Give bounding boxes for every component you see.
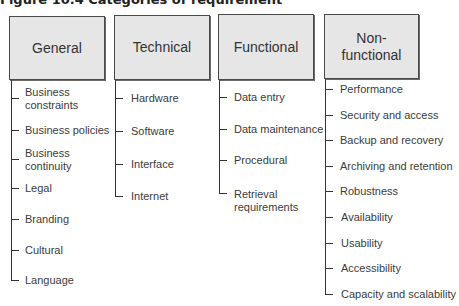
tree-branch [325, 191, 333, 192]
category-label: Technical [133, 39, 191, 56]
category-box-non-functional: Non-functional [324, 14, 419, 79]
category-box-functional: Functional [218, 14, 314, 80]
tree-branch [11, 188, 19, 189]
figure-title: Figure 10.4 Categories of requirement [0, 0, 282, 7]
tree-branch-last [325, 294, 333, 295]
list-item: Interface [131, 158, 174, 171]
tree-branch [325, 217, 333, 218]
category-label: Non-functional [342, 30, 402, 64]
tree-branch [325, 166, 333, 167]
tree-branch-last [219, 193, 227, 194]
tree-branch [325, 89, 333, 90]
tree-branch [11, 250, 19, 251]
tree-branch [219, 160, 227, 161]
tree-branch [115, 164, 123, 165]
list-item: Business constraints [25, 86, 95, 112]
category-box-general: General [9, 16, 105, 80]
tree-branch [11, 219, 19, 220]
tree-branch [11, 130, 19, 131]
list-item: Robustness [340, 185, 398, 198]
tree-branch [115, 98, 123, 99]
tree-branch [11, 159, 19, 160]
category-box-technical: Technical [114, 15, 210, 80]
list-item: Archiving and retention [340, 160, 453, 173]
list-item: Cultural [25, 244, 63, 257]
list-item: Procedural [234, 154, 287, 167]
list-item: Accessibility [341, 262, 401, 275]
list-item: Retrieval requirements [234, 188, 314, 214]
category-label: General [32, 40, 82, 57]
tree-branch-last [11, 280, 19, 281]
tree-branch [325, 140, 333, 141]
list-item: Language [25, 274, 74, 287]
tree-branch [325, 115, 333, 116]
tree-branch [325, 243, 333, 244]
tree-branch [11, 98, 19, 99]
list-item: Business continuity [25, 147, 85, 173]
list-item: Hardware [131, 92, 179, 105]
list-item: Software [131, 125, 174, 138]
list-item: Internet [131, 190, 168, 203]
list-item: Security and access [340, 109, 438, 122]
tree-branch-last [115, 196, 123, 197]
list-item: Data maintenance [234, 123, 323, 136]
list-item: Performance [340, 83, 403, 96]
list-item: Capacity and scalability [341, 288, 456, 301]
tree-branch [219, 97, 227, 98]
tree-branch [325, 268, 333, 269]
list-item: Branding [25, 213, 69, 226]
tree-trunk [325, 79, 326, 295]
list-item: Business policies [25, 124, 109, 137]
list-item: Usability [341, 237, 383, 250]
list-item: Backup and recovery [340, 134, 443, 147]
category-label: Functional [234, 39, 299, 56]
list-item: Data entry [234, 91, 285, 104]
tree-branch [219, 129, 227, 130]
list-item: Availability [341, 211, 393, 224]
list-item: Legal [25, 182, 52, 195]
tree-branch [115, 131, 123, 132]
